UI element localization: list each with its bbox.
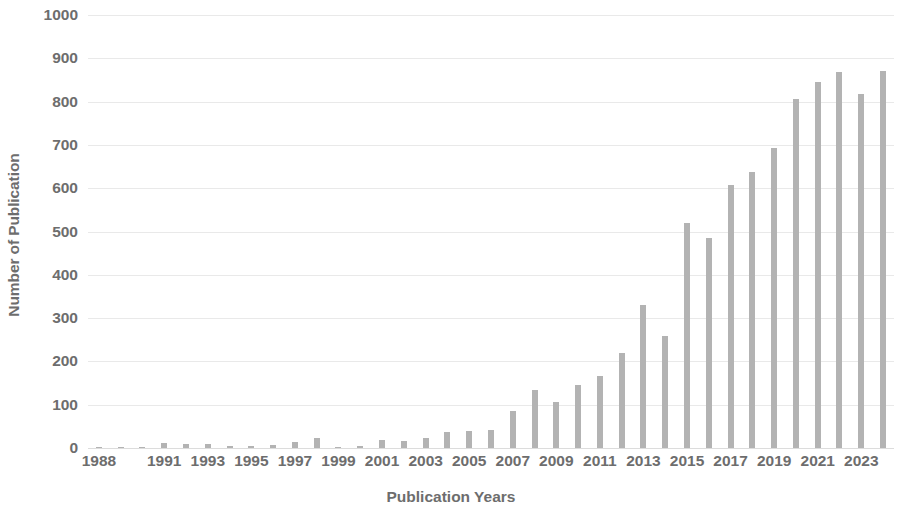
bar-2019 [771, 148, 777, 449]
x-axis-tick-1999: 1999 [321, 452, 355, 470]
y-axis-tick-300: 300 [52, 309, 78, 327]
bar-slot [110, 15, 132, 448]
bar-slot [393, 15, 415, 448]
bar-slot [676, 15, 698, 448]
bar-slot [328, 15, 350, 448]
bar-slot [219, 15, 241, 448]
bar-2018 [749, 172, 755, 448]
bar-2010 [575, 385, 581, 448]
bar-slot [567, 15, 589, 448]
bar-slot [262, 15, 284, 448]
bar-slot [132, 15, 154, 448]
bar-2008 [532, 390, 538, 448]
bar-1990 [139, 447, 145, 448]
bar-2016 [706, 238, 712, 448]
bar-slot [611, 15, 633, 448]
bar-slot [763, 15, 785, 448]
x-axis-tick-2013: 2013 [626, 452, 660, 470]
bar-2006 [488, 430, 494, 448]
x-axis-tick-labels: 1988199119931995199719992001200320052007… [88, 452, 894, 478]
bar-slot [698, 15, 720, 448]
x-axis-tick-1997: 1997 [278, 452, 312, 470]
x-axis-tick-1993: 1993 [191, 452, 225, 470]
bar-1989 [118, 447, 124, 448]
x-axis-tick-1991: 1991 [147, 452, 181, 470]
bar-2000 [357, 446, 363, 448]
gridline-0 [88, 448, 894, 449]
bar-slot [654, 15, 676, 448]
x-axis-tick-2023: 2023 [844, 452, 878, 470]
bar-slot [741, 15, 763, 448]
bar-slot [415, 15, 437, 448]
bar-slot [872, 15, 894, 448]
bar-2020 [793, 99, 799, 448]
bar-slot [850, 15, 872, 448]
bar-2007 [510, 411, 516, 448]
bar-slot [306, 15, 328, 448]
x-axis-tick-2021: 2021 [801, 452, 835, 470]
bar-2013 [640, 305, 646, 448]
y-axis-title: Number of Publication [0, 0, 28, 470]
x-axis-tick-2003: 2003 [408, 452, 442, 470]
plot-area [88, 15, 894, 448]
y-axis-tick-800: 800 [52, 93, 78, 111]
bar-2017 [728, 185, 734, 448]
bar-slot [785, 15, 807, 448]
bar-slot [175, 15, 197, 448]
bar-2002 [401, 441, 407, 448]
bar-1992 [183, 444, 189, 448]
y-axis-tick-100: 100 [52, 396, 78, 414]
bar-slot [240, 15, 262, 448]
bar-slot [153, 15, 175, 448]
y-axis-tick-0: 0 [69, 439, 78, 457]
bar-slot [197, 15, 219, 448]
bar-slot [720, 15, 742, 448]
bar-1991 [161, 443, 167, 448]
bar-2021 [815, 82, 821, 448]
x-axis-tick-1995: 1995 [234, 452, 268, 470]
bar-1997 [292, 442, 298, 448]
x-axis-tick-2017: 2017 [713, 452, 747, 470]
x-axis-tick-2009: 2009 [539, 452, 573, 470]
bar-2003 [423, 438, 429, 448]
bar-slot [524, 15, 546, 448]
bar-1998 [314, 438, 320, 448]
y-axis-tick-900: 900 [52, 49, 78, 67]
y-axis-tick-200: 200 [52, 352, 78, 370]
y-axis-tick-500: 500 [52, 223, 78, 241]
bar-1996 [270, 445, 276, 448]
y-axis-tick-400: 400 [52, 266, 78, 284]
y-axis-title-text: Number of Publication [5, 153, 23, 316]
bar-slot [589, 15, 611, 448]
bar-2014 [662, 336, 668, 448]
bar-2012 [619, 353, 625, 448]
bar-slot [502, 15, 524, 448]
x-axis-tick-2019: 2019 [757, 452, 791, 470]
y-axis-tick-labels: 01002003004005006007008009001000 [28, 0, 84, 470]
bar-2004 [444, 432, 450, 448]
x-axis-tick-2011: 2011 [583, 452, 617, 470]
bar-2023 [858, 94, 864, 448]
y-axis-tick-700: 700 [52, 136, 78, 154]
x-axis-tick-2007: 2007 [496, 452, 530, 470]
bar-1995 [248, 446, 254, 448]
bar-2011 [597, 376, 603, 448]
bar-2022 [836, 72, 842, 448]
y-axis-tick-1000: 1000 [44, 6, 78, 24]
bar-slot [480, 15, 502, 448]
bar-slot [545, 15, 567, 448]
bar-slot [349, 15, 371, 448]
bar-series [88, 15, 894, 448]
bar-1994 [227, 446, 233, 448]
bar-slot [807, 15, 829, 448]
bar-slot [284, 15, 306, 448]
x-axis-title: Publication Years [0, 488, 902, 506]
bar-slot [437, 15, 459, 448]
bar-slot [458, 15, 480, 448]
bar-slot [371, 15, 393, 448]
x-axis-tick-1988: 1988 [82, 452, 116, 470]
bar-slot [633, 15, 655, 448]
bar-2001 [379, 440, 385, 448]
bar-2009 [553, 402, 559, 448]
x-axis-tick-2001: 2001 [365, 452, 399, 470]
